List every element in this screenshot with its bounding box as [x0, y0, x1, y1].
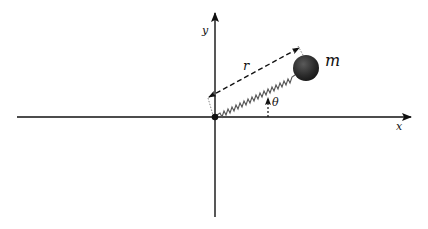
- x-axis-label: x: [396, 120, 403, 133]
- angle-label: θ: [272, 96, 279, 109]
- r-offset-guide: [208, 98, 213, 115]
- mass-label: m: [325, 51, 340, 70]
- y-axis-label: y: [201, 24, 209, 37]
- r-vector-arrow: [209, 48, 299, 97]
- mass-ball: [293, 55, 319, 81]
- diagram-canvas: x y r θ m: [0, 0, 428, 229]
- radius-label: r: [243, 58, 250, 73]
- spring: [217, 75, 295, 117]
- origin-point: [212, 114, 219, 121]
- r-offset-guide-end: [298, 46, 303, 55]
